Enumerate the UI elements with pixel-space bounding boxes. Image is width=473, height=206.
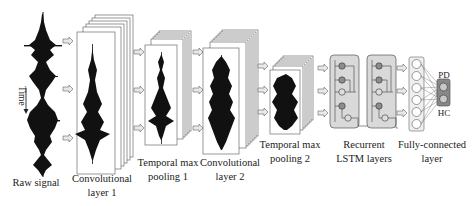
raw-signal-waveform	[24, 12, 62, 177]
arrows-pool2-to-lstm	[318, 64, 328, 117]
pool1-feature-maps	[145, 31, 191, 145]
conv2-label-line2: layer 2	[198, 171, 262, 183]
output-layer	[437, 79, 450, 106]
pool1-label-line1: Temporal max	[136, 157, 200, 169]
pool2-label-line1: Temporal max	[258, 139, 322, 151]
arrows-pool1-to-conv2	[193, 48, 203, 132]
conv2-feature-maps	[203, 30, 258, 154]
time-axis-label: Time	[16, 86, 28, 106]
lstm-layer-1	[330, 55, 370, 128]
fc-label-line2: layer	[394, 153, 470, 165]
arrows-conv2-to-pool2	[258, 62, 268, 116]
conv1-label-line1: Convolutional	[70, 173, 134, 185]
raw-signal-label: Raw signal	[6, 177, 66, 189]
arrows-conv1-to-pool1	[134, 48, 144, 132]
lstm-label-line1: Recurrent	[332, 139, 396, 151]
arrows-raw-to-conv1	[63, 37, 73, 142]
pool1-label-line2: pooling 1	[136, 171, 200, 183]
fc-label-line1: Fully-connected	[394, 139, 470, 151]
lstm-label-line2: LSTM layers	[332, 153, 396, 165]
pool2-label-line2: pooling 2	[258, 153, 322, 165]
arrows-lstm-to-fc	[397, 64, 407, 117]
conv1-label-line2: layer 1	[70, 187, 134, 199]
lstm-layer-2	[367, 55, 398, 128]
conv1-feature-maps	[77, 15, 133, 174]
output-pd-label: PD	[434, 69, 454, 81]
conv2-label-line1: Convolutional	[198, 157, 262, 169]
output-hc-label: HC	[434, 107, 454, 119]
